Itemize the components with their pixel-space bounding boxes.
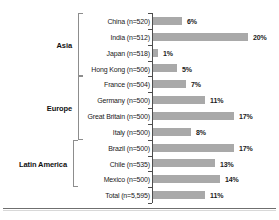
bar-value-label: 8% — [196, 129, 206, 136]
group-label-asia: Asia — [57, 42, 72, 50]
bar-segment — [153, 49, 158, 57]
bar-value-label: 13% — [220, 161, 234, 168]
bar-segment — [153, 128, 191, 136]
bar-value-label: 1% — [163, 50, 173, 57]
footer-divider-shadow — [3, 210, 276, 211]
axis-tick — [148, 45, 152, 46]
bar-chart: Asia Europe Latin America China (n=520) … — [0, 0, 279, 220]
category-label: China (n=520) — [107, 18, 150, 25]
bar-segment — [153, 80, 186, 88]
bar-value-label: 5% — [182, 66, 192, 73]
category-label: Germany (n=500) — [97, 97, 150, 104]
axis-tick — [148, 140, 152, 141]
axis-tick — [148, 108, 152, 109]
axis-tick — [148, 76, 152, 77]
axis-tick — [148, 203, 152, 204]
axis-tick — [148, 171, 152, 172]
bar-value-label: 20% — [253, 34, 267, 41]
category-label: France (n=504) — [104, 81, 150, 88]
category-label: Total (n=5,595) — [105, 192, 150, 199]
bar-segment — [153, 17, 182, 25]
category-label: Brazil (n=500) — [108, 145, 150, 152]
bar-segment — [153, 175, 220, 183]
axis-tick — [148, 187, 152, 188]
category-label: Great Britain (n=500) — [88, 113, 150, 120]
axis-tick — [148, 124, 152, 125]
bar-value-label: 11% — [210, 97, 223, 104]
bar-value-label: 6% — [187, 18, 197, 25]
group-label-latin-america: Latin America — [19, 161, 67, 169]
bar-value-label: 17% — [239, 113, 253, 120]
group-label-europe: Europe — [47, 105, 72, 113]
bar-segment — [153, 144, 234, 152]
bar-value-label: 7% — [191, 81, 201, 88]
bar-value-label: 17% — [239, 145, 253, 152]
footer-divider — [3, 208, 276, 209]
bar-segment — [153, 64, 177, 72]
category-label: India (n=512) — [111, 34, 151, 41]
bar-segment — [153, 112, 234, 120]
bar-segment — [153, 33, 248, 41]
axis-tick — [148, 29, 152, 30]
bar-segment — [153, 159, 215, 167]
axis-tick — [148, 156, 152, 157]
category-label: Chile (n=535) — [110, 161, 150, 168]
group-bracket-latin-america — [73, 140, 78, 188]
axis-tick — [148, 61, 152, 62]
category-label: Mexico (n=500) — [104, 176, 150, 183]
bar-segment — [153, 191, 205, 199]
category-label: Italy (n=500) — [113, 129, 150, 136]
category-label: Japan (n=518) — [107, 50, 150, 57]
bar-segment — [153, 96, 205, 104]
axis-tick — [148, 92, 152, 93]
bar-value-label: 14% — [225, 176, 239, 183]
axis-tick — [148, 13, 152, 14]
category-label: Hong Kong (n=506) — [91, 66, 150, 73]
group-bracket-europe — [78, 76, 83, 139]
group-bracket-asia — [78, 13, 83, 76]
bar-value-label: 11% — [210, 192, 223, 199]
